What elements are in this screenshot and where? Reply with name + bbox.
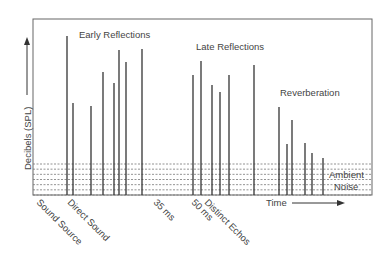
impulse-lines xyxy=(67,36,323,195)
ambient-label: Ambient xyxy=(329,169,364,180)
late-reflections-label: Late Reflections xyxy=(196,41,264,52)
ambient-noise-band xyxy=(33,164,372,195)
noise-label: Noise xyxy=(334,181,358,192)
x-axis: Time xyxy=(266,197,345,208)
early-reflections-label: Early Reflections xyxy=(79,29,151,40)
y-axis-label: Decibels (SPL) xyxy=(22,107,33,170)
arrow-up-icon xyxy=(24,37,30,45)
x-axis-label: Time xyxy=(266,197,287,208)
arrow-right-icon xyxy=(337,200,345,206)
x-tick-labels: Sound SourceDirect Sound35 ms50 msDistin… xyxy=(35,197,254,248)
x-tick-label: Distinct Echos xyxy=(203,197,254,248)
y-axis: Decibels (SPL) xyxy=(22,37,33,170)
x-tick-label: 35 ms xyxy=(152,197,178,223)
reverberation-label: Reverberation xyxy=(280,87,340,98)
reflection-diagram: Early Reflections Late Reflections Rever… xyxy=(0,0,385,260)
